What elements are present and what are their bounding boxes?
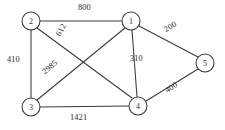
node-3-label: 3 [29,103,33,112]
node-5-label: 5 [203,59,207,68]
node-4-label: 4 [136,102,140,111]
edge-weight-1-4: 310 [130,55,143,63]
edge-weight-2-3: 410 [7,56,20,64]
edge-1-4 [132,30,137,97]
edge-weight-2-1: 800 [78,4,91,12]
graph-canvas: 2 1 5 3 4 [0,0,225,130]
graph-diagram: 2 1 5 3 4 800 410 612 2985 310 1421 200 … [0,0,225,130]
node-2-label: 2 [29,17,33,26]
edge-3-4 [40,106,129,107]
node-1-label: 1 [129,17,133,26]
edge-weight-3-4: 1421 [70,114,87,122]
